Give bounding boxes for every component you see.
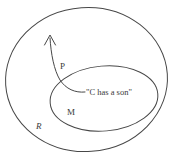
set-label-R: R [36, 122, 42, 131]
set-diagram-figure: P M R "C has a son" [0, 0, 173, 156]
projection-curve [50, 38, 85, 92]
set-label-M: M [67, 108, 75, 117]
outer-set-ellipse-R [1, 2, 173, 156]
point-label-P: P [60, 62, 65, 71]
diagram-canvas [0, 0, 173, 156]
inner-set-ellipse-M [47, 61, 160, 135]
proposition-annotation: "C has a son" [86, 88, 132, 97]
